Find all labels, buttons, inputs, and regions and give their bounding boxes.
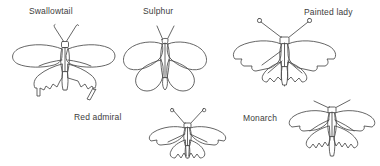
butterfly-drawing-sulphur bbox=[119, 20, 211, 108]
species-label-monarch: Monarch bbox=[243, 113, 277, 123]
species-label-red-admiral: Red admiral bbox=[74, 112, 121, 122]
butterfly-drawing-monarch bbox=[288, 100, 376, 164]
species-label-sulphur: Sulphur bbox=[143, 6, 173, 16]
butterfly-drawing-painted-lady bbox=[232, 16, 338, 102]
butterfly-identification-figure: Swallowtail Sulphur bbox=[0, 0, 380, 166]
species-label-swallowtail: Swallowtail bbox=[29, 6, 73, 16]
butterfly-drawing-red-admiral bbox=[148, 108, 228, 166]
butterfly-drawing-swallowtail bbox=[10, 20, 118, 110]
